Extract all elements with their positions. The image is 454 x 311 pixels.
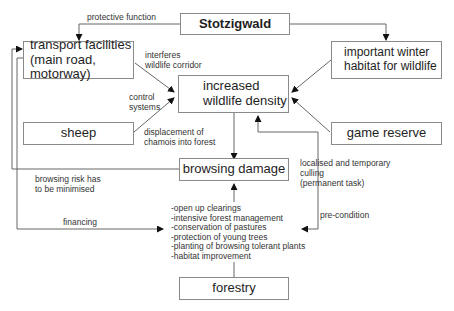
label-culling-3: (permanent task): [300, 178, 390, 188]
node-density-label-2: wildlife density: [203, 94, 287, 109]
node-forestry: forestry: [179, 277, 289, 300]
label-browsing-risk: browsing risk has to be minimised: [35, 174, 101, 194]
node-sheep: sheep: [23, 122, 134, 145]
node-transport-facilities: transport facilities (main road, motorwa…: [23, 41, 134, 79]
node-game-reserve: game reserve: [331, 122, 442, 145]
label-control-systems: control systems: [129, 92, 160, 112]
label-interferes-wildlife-corridor: interferes wildlife corridor: [145, 50, 202, 70]
measure-item: -habitat improvement: [171, 252, 305, 262]
label-control-1: control: [129, 92, 160, 102]
node-stotzigwald: Stotzigwald: [180, 13, 290, 35]
label-displacement-1: displacement of: [144, 127, 215, 137]
label-culling-1: localised and temporary: [300, 158, 390, 168]
node-transport-label-1: transport facilities: [30, 38, 133, 53]
label-control-2: systems: [129, 102, 160, 112]
node-forestry-label: forestry: [212, 281, 255, 296]
label-interferes-1: interferes: [145, 50, 202, 60]
label-pre-condition: pre-condition: [320, 210, 369, 220]
measures-list: -open up clearings -intensive forest man…: [171, 204, 305, 262]
node-browsing-damage: browsing damage: [179, 158, 289, 181]
label-risk-2: to be minimised: [35, 184, 101, 194]
node-stotzigwald-label: Stotzigwald: [199, 17, 271, 32]
node-increased-wildlife-density: increased wildlife density: [178, 75, 289, 113]
node-browsing-damage-label: browsing damage: [183, 162, 286, 177]
node-winter-habitat: important winter habitat for wildlife: [331, 41, 442, 79]
label-displacement-chamois: displacement of chamois into forest: [144, 127, 215, 147]
label-interferes-2: wildlife corridor: [145, 60, 202, 70]
node-winter-label-1: important winter: [344, 46, 437, 60]
label-financing: financing: [63, 217, 97, 227]
label-culling: localised and temporary culling (permane…: [300, 158, 390, 188]
node-density-label-1: increased: [203, 79, 287, 94]
node-winter-label-2: habitat for wildlife: [344, 60, 437, 74]
node-sheep-label: sheep: [61, 126, 96, 141]
node-game-reserve-label: game reserve: [347, 126, 426, 141]
label-risk-1: browsing risk has: [35, 174, 101, 184]
label-culling-2: culling: [300, 168, 390, 178]
label-displacement-2: chamois into forest: [144, 137, 215, 147]
node-transport-label-2: (main road, motorway): [30, 53, 133, 83]
label-protective-function: protective function: [87, 12, 156, 22]
